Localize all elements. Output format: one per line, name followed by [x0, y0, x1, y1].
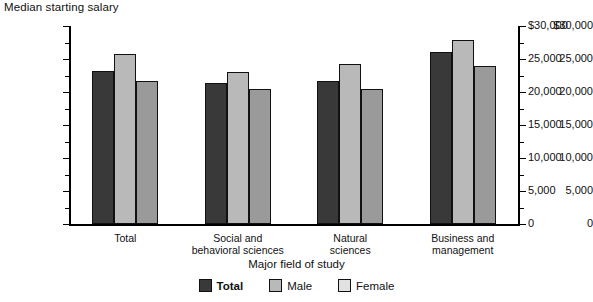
legend-label-total: Total [217, 280, 244, 292]
y-minor-tick-right-7500 [520, 175, 524, 176]
x-category-label-3: Business and management [393, 232, 533, 256]
legend-item-total[interactable]: Total [199, 279, 244, 292]
y-tick-right-20000 [520, 92, 526, 94]
bar-female-0 [136, 81, 158, 224]
legend-swatch-male-icon [269, 279, 282, 292]
bar-group-0 [92, 26, 158, 224]
bar-group-3 [430, 26, 496, 224]
bar-total-1 [205, 83, 227, 224]
bar-group-2 [317, 26, 383, 224]
y-minor-tick-right-22500 [520, 76, 524, 77]
y-tick-right-0 [520, 224, 526, 226]
legend-swatch-total-icon [199, 279, 212, 292]
bar-total-0 [92, 71, 114, 224]
y-tick-right-5000 [520, 191, 526, 193]
y-tick-label-right-15000: 15,000 [528, 119, 590, 130]
y-tick-right-30000 [520, 26, 526, 28]
bar-female-1 [249, 89, 271, 224]
bar-male-1 [227, 72, 249, 224]
bar-total-2 [317, 81, 339, 224]
bar-group-1 [205, 26, 271, 224]
y-minor-tick-right-12500 [520, 142, 524, 143]
bar-male-2 [339, 64, 361, 224]
y-tick-label-right-20000: 20,000 [528, 86, 590, 97]
chart-title: Median starting salary [4, 1, 119, 13]
bar-female-2 [361, 89, 383, 224]
y-tick-label-right-25000: 25,000 [528, 53, 590, 64]
bar-total-3 [430, 52, 452, 224]
y-minor-tick-right-17500 [520, 109, 524, 110]
chart-legend: TotalMaleFemale [0, 279, 593, 292]
legend-item-female[interactable]: Female [338, 279, 394, 292]
y-minor-tick-right-2500 [520, 208, 524, 209]
y-minor-tick-right-27500 [520, 43, 524, 44]
legend-swatch-female-icon [338, 279, 351, 292]
x-axis-line [69, 224, 520, 226]
y-tick-label-right-10000: 10,000 [528, 152, 590, 163]
y-tick-right-15000 [520, 125, 526, 127]
x-axis-title: Major field of study [0, 258, 593, 270]
chart-root: Median starting salary $30,000$30,00025,… [0, 0, 593, 302]
legend-item-male[interactable]: Male [269, 279, 312, 292]
y-tick-label-right-30000: $30,000 [528, 20, 590, 31]
y-tick-right-10000 [520, 158, 526, 160]
legend-label-female: Female [356, 280, 394, 292]
y-tick-label-right-5000: 5,000 [528, 185, 590, 196]
bar-female-3 [474, 66, 496, 224]
bar-male-3 [452, 40, 474, 224]
y-tick-right-25000 [520, 59, 526, 61]
plot-area [69, 26, 519, 224]
y-tick-label-right-0: 0 [528, 218, 590, 229]
bar-male-0 [114, 54, 136, 224]
legend-label-male: Male [287, 280, 312, 292]
